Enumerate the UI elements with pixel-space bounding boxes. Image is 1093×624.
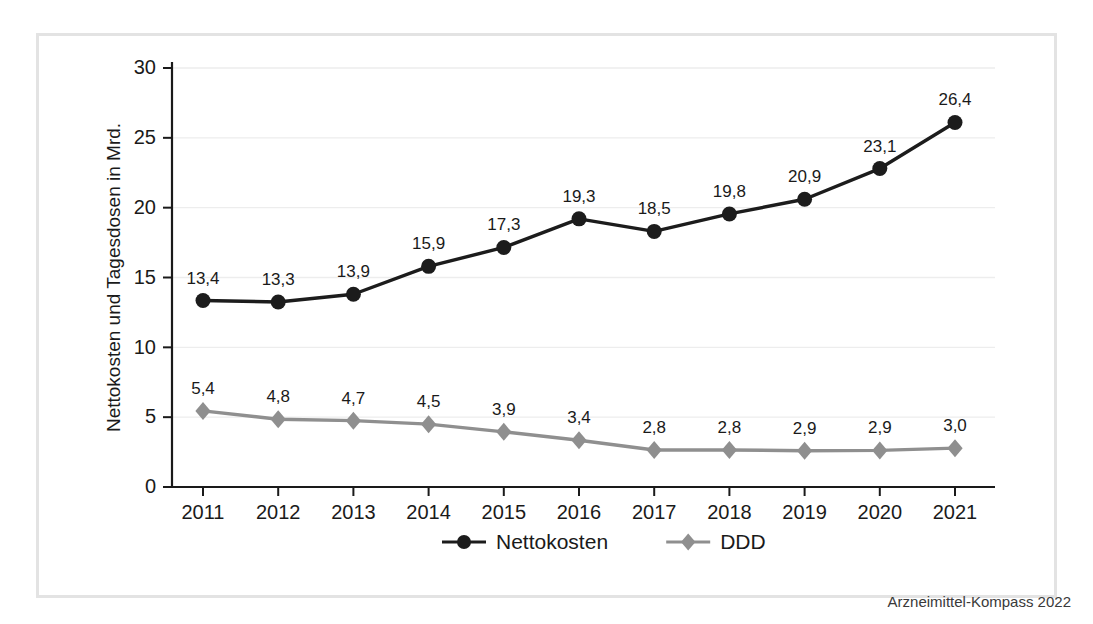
y-tick-label: 30 — [134, 56, 156, 78]
y-tick-label: 5 — [145, 405, 156, 427]
data-point-label: 13,3 — [262, 270, 295, 289]
legend-marker-ddd — [681, 534, 695, 551]
data-point-label: 2,9 — [868, 418, 892, 437]
data-point-marker — [722, 206, 737, 221]
gridlines — [172, 68, 995, 417]
data-point-marker — [947, 439, 962, 457]
data-point-label: 19,8 — [713, 182, 746, 201]
data-point-label: 4,7 — [342, 389, 366, 408]
y-axis-ticks: 051015202530 — [134, 56, 172, 497]
data-point-label: 3,0 — [943, 416, 967, 435]
x-tick-label: 2011 — [181, 501, 224, 523]
data-point-label: 15,9 — [412, 234, 445, 253]
data-point-marker — [571, 431, 586, 449]
x-tick-label: 2017 — [632, 501, 677, 523]
x-tick-label: 2016 — [557, 501, 602, 523]
data-point-marker — [872, 441, 887, 459]
data-point-marker — [271, 410, 286, 428]
data-point-marker — [346, 412, 361, 430]
data-point-label: 2,8 — [642, 418, 666, 437]
data-point-marker — [872, 161, 887, 176]
line-chart: 051015202530 201120122013201420152016201… — [0, 0, 1093, 624]
data-point-label: 26,4 — [938, 90, 971, 109]
data-point-label: 3,4 — [567, 408, 591, 427]
x-axis-ticks: 2011201220132014201520162017201820192020… — [181, 487, 977, 523]
data-point-marker — [797, 192, 812, 207]
data-point-marker — [647, 224, 662, 239]
y-tick-label: 10 — [134, 336, 156, 358]
x-tick-label: 2012 — [256, 501, 301, 523]
y-axis-title-text: Nettokosten und Tagesdosen in Mrd. — [103, 123, 124, 432]
x-tick-label: 2018 — [707, 501, 752, 523]
data-point-label: 19,3 — [562, 187, 595, 206]
data-point-marker — [797, 442, 812, 460]
data-point-marker — [196, 293, 211, 308]
legend-label-ddd: DDD — [720, 530, 766, 553]
data-point-label: 3,9 — [492, 400, 516, 419]
y-tick-label: 15 — [134, 266, 156, 288]
chart-legend: NettokostenDDD — [442, 530, 766, 553]
x-tick-label: 2013 — [331, 501, 376, 523]
data-point-label: 4,8 — [266, 387, 290, 406]
y-tick-label: 20 — [134, 196, 156, 218]
data-point-label: 13,9 — [337, 262, 370, 281]
y-tick-label: 25 — [134, 126, 156, 148]
y-tick-label: 0 — [145, 475, 156, 497]
legend-marker-nettokosten — [457, 535, 471, 549]
y-axis-title: Nettokosten und Tagesdosen in Mrd. — [103, 123, 124, 432]
x-tick-label: 2021 — [933, 501, 978, 523]
legend-label-nettokosten: Nettokosten — [496, 530, 608, 553]
data-point-label: 17,3 — [487, 215, 520, 234]
data-point-marker — [496, 240, 511, 255]
data-point-label: 2,8 — [718, 418, 742, 437]
data-point-marker — [647, 441, 662, 459]
data-point-marker — [572, 211, 587, 226]
x-tick-label: 2019 — [782, 501, 827, 523]
source-credit: Arzneimittel-Kompass 2022 — [888, 593, 1071, 610]
data-point-label: 18,5 — [638, 199, 671, 218]
x-tick-label: 2020 — [858, 501, 903, 523]
data-point-marker — [346, 287, 361, 302]
data-point-label: 13,4 — [186, 269, 219, 288]
data-point-marker — [722, 441, 737, 459]
data-point-marker — [948, 115, 963, 130]
data-point-marker — [271, 294, 286, 309]
data-point-label: 20,9 — [788, 167, 821, 186]
x-tick-label: 2015 — [482, 501, 527, 523]
data-point-marker — [496, 423, 511, 441]
data-point-labels: 13,413,313,915,917,319,318,519,820,923,1… — [186, 90, 971, 437]
x-tick-label: 2014 — [406, 501, 451, 523]
data-point-label: 2,9 — [793, 419, 817, 438]
data-point-label: 23,1 — [863, 137, 896, 156]
data-point-label: 5,4 — [191, 379, 215, 398]
data-point-label: 4,5 — [417, 392, 441, 411]
data-point-marker — [421, 259, 436, 274]
